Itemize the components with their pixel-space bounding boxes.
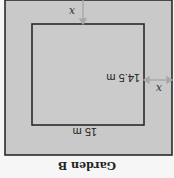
path-width-label-side: x — [155, 82, 162, 95]
diagram-canvas: x x 14.5 m 15 m Garden B — [0, 0, 174, 178]
garden-diagram: x x 14.5 m 15 m Garden B — [0, 0, 174, 178]
inner-height-label: 14.5 m — [106, 72, 140, 84]
diagram-title: Garden B — [58, 159, 116, 172]
path-width-label-top: x — [68, 5, 75, 18]
inner-width-label: 15 m — [73, 126, 97, 138]
